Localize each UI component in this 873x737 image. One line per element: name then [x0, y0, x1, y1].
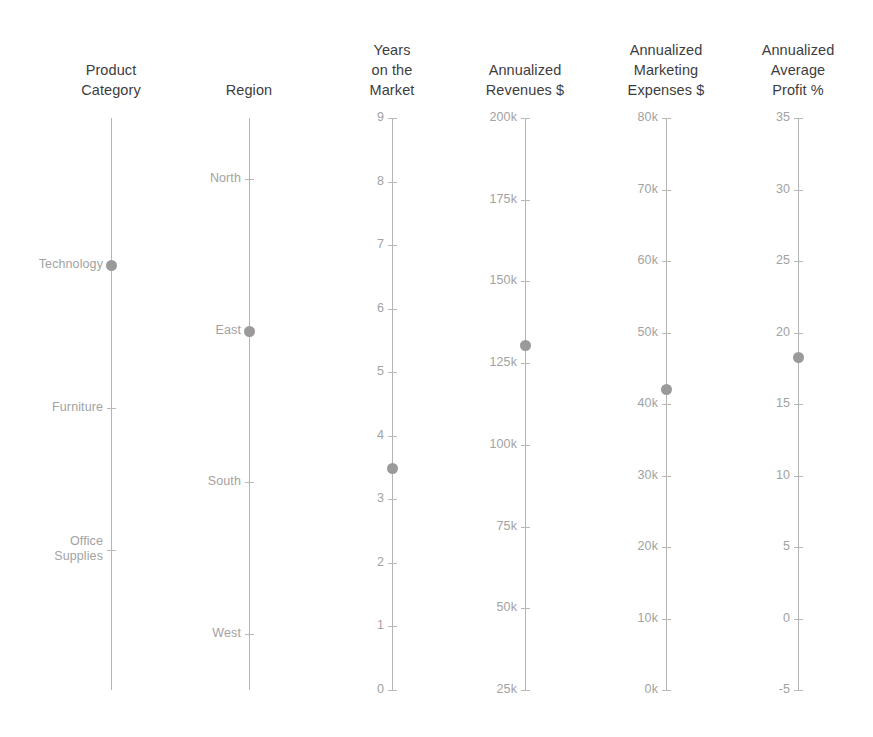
axis-tick-years-on-the-market-2: [388, 245, 397, 246]
axis-tick-label-years-on-the-market-7: 2: [284, 555, 384, 570]
axis-tick-label-years-on-the-market-0: 9: [284, 110, 384, 125]
axis-tick-label-region-3: West: [141, 626, 241, 641]
axis-tick-label-region-1: East: [141, 323, 241, 338]
axis-tick-annualized-revenues-1: [521, 200, 530, 201]
axis-tick-label-product-category-1: Furniture: [3, 400, 103, 415]
axis-tick-annualized-marketing-expenses-0: [662, 118, 671, 119]
axis-tick-annualized-marketing-expenses-8: [662, 690, 671, 691]
axis-tick-annualized-revenues-4: [521, 445, 530, 446]
axis-tick-label-annualized-revenues-6: 50k: [417, 600, 517, 615]
axis-tick-annualized-average-profit-4: [794, 404, 803, 405]
axis-tick-years-on-the-market-3: [388, 309, 397, 310]
axis-tick-label-annualized-marketing-expenses-6: 20k: [558, 539, 658, 554]
axis-tick-annualized-marketing-expenses-1: [662, 190, 671, 191]
axis-tick-label-annualized-revenues-3: 125k: [417, 355, 517, 370]
axis-tick-label-annualized-revenues-0: 200k: [417, 110, 517, 125]
axis-tick-years-on-the-market-1: [388, 182, 397, 183]
data-point-annualized-marketing-expenses[interactable]: [661, 384, 672, 395]
axis-tick-label-annualized-revenues-2: 150k: [417, 273, 517, 288]
axis-tick-years-on-the-market-9: [388, 690, 397, 691]
axis-tick-annualized-average-profit-6: [794, 547, 803, 548]
axis-tick-label-years-on-the-market-2: 7: [284, 237, 384, 252]
axis-tick-label-product-category-0: Technology: [3, 257, 103, 272]
axis-tick-annualized-marketing-expenses-4: [662, 404, 671, 405]
axis-tick-label-annualized-average-profit-8: -5: [690, 682, 790, 697]
axis-tick-annualized-average-profit-5: [794, 476, 803, 477]
axis-tick-label-annualized-average-profit-7: 0: [690, 611, 790, 626]
axis-tick-annualized-average-profit-7: [794, 619, 803, 620]
axis-tick-region-3: [245, 634, 254, 635]
axis-tick-annualized-average-profit-0: [794, 118, 803, 119]
data-point-annualized-revenues[interactable]: [520, 340, 531, 351]
axis-tick-annualized-marketing-expenses-2: [662, 261, 671, 262]
axis-tick-annualized-average-profit-3: [794, 333, 803, 334]
axis-title-annualized-revenues: Annualized Revenues $: [445, 60, 605, 100]
axis-tick-label-annualized-average-profit-6: 5: [690, 539, 790, 554]
axis-tick-label-annualized-marketing-expenses-0: 80k: [558, 110, 658, 125]
axis-line-region: [249, 118, 250, 690]
axis-tick-years-on-the-market-5: [388, 436, 397, 437]
axis-tick-years-on-the-market-7: [388, 563, 397, 564]
axis-tick-label-annualized-average-profit-1: 30: [690, 182, 790, 197]
axis-tick-annualized-revenues-3: [521, 363, 530, 364]
axis-tick-label-annualized-revenues-7: 25k: [417, 682, 517, 697]
axis-tick-label-annualized-revenues-5: 75k: [417, 519, 517, 534]
axis-title-product-category: Product Category: [31, 60, 191, 100]
axis-tick-label-annualized-marketing-expenses-8: 0k: [558, 682, 658, 697]
data-point-product-category[interactable]: [106, 260, 117, 271]
axis-tick-label-annualized-revenues-1: 175k: [417, 192, 517, 207]
axis-tick-label-years-on-the-market-9: 0: [284, 682, 384, 697]
axis-tick-annualized-marketing-expenses-6: [662, 547, 671, 548]
axis-tick-label-region-0: North: [141, 171, 241, 186]
axis-tick-label-years-on-the-market-8: 1: [284, 618, 384, 633]
axis-tick-product-category-2: [107, 550, 116, 551]
axis-title-region: Region: [169, 80, 329, 100]
axis-tick-label-years-on-the-market-6: 3: [284, 491, 384, 506]
axis-tick-label-annualized-marketing-expenses-2: 60k: [558, 253, 658, 268]
axis-tick-region-0: [245, 179, 254, 180]
axis-tick-label-years-on-the-market-3: 6: [284, 301, 384, 316]
axis-tick-label-years-on-the-market-4: 5: [284, 364, 384, 379]
axis-tick-annualized-revenues-0: [521, 118, 530, 119]
axis-title-annualized-average-profit: Annualized Average Profit %: [718, 40, 873, 100]
axis-tick-label-years-on-the-market-5: 4: [284, 428, 384, 443]
axis-tick-label-years-on-the-market-1: 8: [284, 174, 384, 189]
axis-tick-annualized-marketing-expenses-7: [662, 619, 671, 620]
axis-tick-label-annualized-revenues-4: 100k: [417, 437, 517, 452]
axis-tick-years-on-the-market-8: [388, 626, 397, 627]
data-point-region[interactable]: [244, 326, 255, 337]
axis-tick-label-annualized-average-profit-2: 25: [690, 253, 790, 268]
axis-tick-years-on-the-market-0: [388, 118, 397, 119]
axis-line-annualized-revenues: [525, 118, 526, 690]
axis-line-product-category: [111, 118, 112, 690]
axis-tick-label-annualized-average-profit-4: 15: [690, 396, 790, 411]
axis-tick-product-category-1: [107, 408, 116, 409]
axis-tick-annualized-average-profit-1: [794, 190, 803, 191]
axis-line-years-on-the-market: [392, 118, 393, 690]
axis-tick-label-annualized-marketing-expenses-7: 10k: [558, 611, 658, 626]
axis-tick-region-2: [245, 482, 254, 483]
axis-tick-label-annualized-marketing-expenses-1: 70k: [558, 182, 658, 197]
axis-tick-annualized-revenues-7: [521, 690, 530, 691]
axis-tick-label-annualized-marketing-expenses-5: 30k: [558, 468, 658, 483]
axis-tick-label-region-2: South: [141, 474, 241, 489]
data-point-annualized-average-profit[interactable]: [793, 352, 804, 363]
data-point-years-on-the-market[interactable]: [387, 463, 398, 474]
axis-tick-label-annualized-average-profit-0: 35: [690, 110, 790, 125]
axis-tick-annualized-average-profit-2: [794, 261, 803, 262]
axis-tick-annualized-revenues-5: [521, 527, 530, 528]
axis-tick-label-annualized-marketing-expenses-4: 40k: [558, 396, 658, 411]
axis-tick-years-on-the-market-6: [388, 499, 397, 500]
axis-tick-years-on-the-market-4: [388, 372, 397, 373]
axis-tick-annualized-revenues-2: [521, 281, 530, 282]
parallel-coordinates-chart: Product CategoryTechnologyFurnitureOffic…: [0, 0, 873, 737]
axis-tick-label-annualized-marketing-expenses-3: 50k: [558, 325, 658, 340]
axis-tick-annualized-marketing-expenses-3: [662, 333, 671, 334]
axis-tick-label-annualized-average-profit-5: 10: [690, 468, 790, 483]
axis-tick-annualized-revenues-6: [521, 608, 530, 609]
axis-tick-annualized-average-profit-8: [794, 690, 803, 691]
axis-tick-annualized-marketing-expenses-5: [662, 476, 671, 477]
axis-tick-label-annualized-average-profit-3: 20: [690, 325, 790, 340]
axis-tick-label-product-category-2: Office Supplies: [3, 534, 103, 564]
